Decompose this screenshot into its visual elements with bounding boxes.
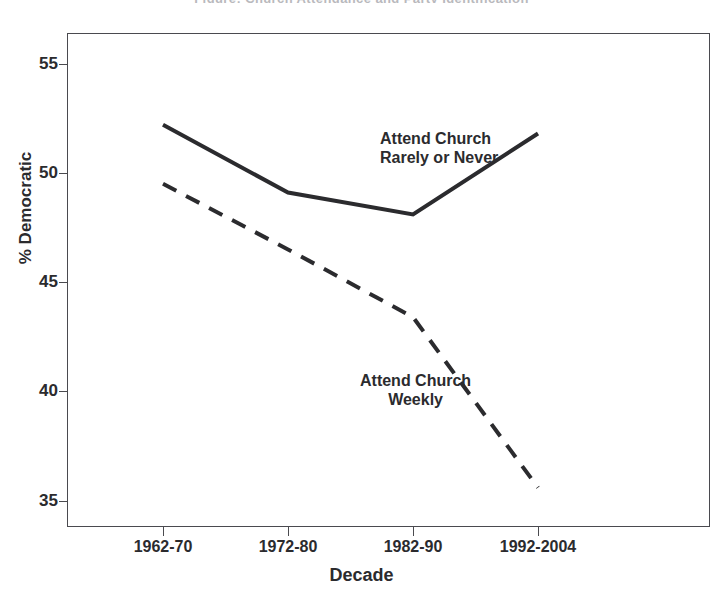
x-axis-title: Decade	[0, 565, 723, 586]
cropped-chart-title: Figure: Church Attendance and Party Iden…	[0, 0, 723, 3]
y-axis-tick-mark	[59, 391, 68, 392]
x-axis-tick-mark	[413, 527, 414, 536]
chart-figure: Figure: Church Attendance and Party Iden…	[0, 0, 723, 593]
series-annotation-rarely-or-never: Attend Church Rarely or Never	[380, 130, 498, 168]
y-axis-tick-mark	[59, 282, 68, 283]
annotation-weekly-line-1: Attend Church	[360, 372, 471, 391]
y-axis-title: % Democratic	[16, 118, 36, 298]
y-axis-tick-label: 55	[12, 54, 58, 74]
y-axis-tick-mark	[59, 173, 68, 174]
y-axis-tick-mark	[59, 501, 68, 502]
y-axis-tick-label: 40	[12, 381, 58, 401]
series-annotation-weekly: Attend Church Weekly	[360, 372, 471, 410]
series-line-weekly	[163, 184, 538, 488]
annotation-rarely-line-1: Attend Church	[380, 130, 498, 149]
y-axis-tick-mark	[59, 64, 68, 65]
x-axis-tick-mark	[538, 527, 539, 536]
plot-area	[67, 33, 710, 527]
annotation-weekly-line-2: Weekly	[360, 391, 471, 410]
x-axis-tick-mark	[288, 527, 289, 536]
y-axis-tick-label: 35	[12, 491, 58, 511]
x-axis-tick-label: 1992-2004	[458, 538, 618, 556]
annotation-rarely-line-2: Rarely or Never	[380, 149, 498, 168]
x-axis-tick-mark	[163, 527, 164, 536]
